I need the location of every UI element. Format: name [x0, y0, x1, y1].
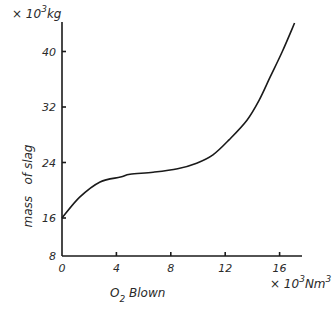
y-unit-label: × 103kg [12, 4, 62, 21]
x-axis-label: O2 Blown [110, 286, 165, 304]
x-tick-label: 12 [218, 262, 232, 275]
x-tick-label: 4 [113, 262, 120, 275]
y-tick-label: 16 [42, 212, 56, 225]
x-tick-label: 0 [59, 262, 66, 275]
x-tick-label: 8 [167, 262, 174, 275]
axes [62, 22, 302, 256]
series-line-mass-of-slag [62, 23, 295, 218]
x-tick-label: 16 [273, 262, 287, 275]
y-tick-label: 8 [49, 250, 56, 263]
chart: 0481216 816243240 × 103kg mass of slag O… [0, 0, 332, 312]
y-tick-label: 24 [42, 157, 56, 170]
x-unit-label: × 103Nm3 [270, 274, 332, 291]
y-axis-label: mass of slag [21, 144, 35, 227]
y-tick-label: 32 [42, 101, 56, 114]
y-tick-label: 40 [42, 46, 56, 59]
